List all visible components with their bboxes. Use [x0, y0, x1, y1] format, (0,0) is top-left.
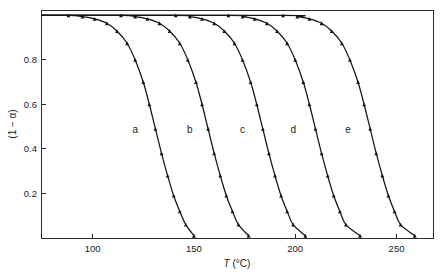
x-axis-ticks — [93, 234, 397, 238]
data-point-a-6 — [133, 58, 137, 62]
plot-area-border — [42, 11, 434, 239]
data-point-a-9 — [154, 127, 158, 131]
x-tick-label-200: 200 — [287, 243, 303, 254]
data-point-b-12 — [224, 194, 228, 198]
x-axis-title-text: T (°C) — [224, 258, 251, 269]
figure-container: 0.20.40.60.8 100150200250 abcde T (°C) (… — [0, 0, 445, 274]
data-point-b-9 — [206, 127, 210, 131]
x-axis-title: T (°C) — [224, 258, 251, 269]
data-point-b-13 — [231, 209, 235, 213]
curve-label-a: a — [132, 124, 138, 135]
data-point-b-6 — [186, 58, 190, 62]
data-point-c-11 — [273, 174, 277, 178]
data-point-d-13 — [338, 209, 342, 213]
data-point-a-8 — [147, 103, 151, 107]
data-point-a-7 — [141, 80, 145, 84]
data-point-e-13 — [393, 209, 397, 213]
data-point-d-8 — [308, 103, 312, 107]
data-point-c-9 — [261, 127, 265, 131]
y-tick-label-0.8: 0.8 — [24, 54, 37, 65]
curve-label-c: c — [240, 124, 245, 135]
data-point-d-12 — [332, 194, 336, 198]
data-point-e-12 — [387, 194, 391, 198]
curve-label-e: e — [345, 124, 351, 135]
data-point-b-7 — [194, 80, 198, 84]
y-axis-ticks — [42, 60, 46, 194]
data-point-e-11 — [380, 174, 384, 178]
y-tick-label-0.2: 0.2 — [24, 188, 37, 199]
y-axis-tick-labels: 0.20.40.60.8 — [24, 54, 37, 199]
data-point-c-10 — [267, 152, 271, 156]
data-point-c-13 — [285, 209, 289, 213]
data-point-b-11 — [218, 174, 222, 178]
data-point-a-12 — [172, 194, 176, 198]
data-curves-layer — [42, 15, 415, 235]
y-tick-label-0.6: 0.6 — [24, 99, 37, 110]
y-axis-title-text: (1 − α) — [7, 109, 18, 138]
data-point-c-12 — [279, 194, 283, 198]
x-tick-label-100: 100 — [85, 243, 101, 254]
y-axis-title: (1 − α) — [7, 109, 18, 138]
curve-c — [42, 15, 305, 235]
x-tick-label-150: 150 — [186, 243, 202, 254]
data-point-a-13 — [178, 209, 182, 213]
curve-label-d: d — [290, 124, 296, 135]
curve-d — [42, 15, 360, 235]
data-point-e-6 — [348, 58, 352, 62]
data-point-a-10 — [160, 152, 164, 156]
conversion-curve-chart: 0.20.40.60.8 100150200250 abcde T (°C) (… — [0, 0, 445, 274]
data-point-c-7 — [249, 80, 253, 84]
data-point-c-8 — [255, 103, 259, 107]
curve-a — [42, 15, 194, 235]
x-tick-label-250: 250 — [389, 243, 405, 254]
data-point-b-10 — [212, 152, 216, 156]
curve-label-b: b — [187, 124, 193, 135]
data-point-d-9 — [314, 127, 318, 131]
y-tick-label-0.4: 0.4 — [24, 143, 37, 154]
data-point-c-6 — [241, 58, 245, 62]
x-axis-tick-labels: 100150200250 — [85, 243, 405, 254]
data-point-e-10 — [374, 152, 378, 156]
curve-annotations-layer: abcde — [132, 124, 351, 135]
data-point-a-11 — [166, 174, 170, 178]
curve-b — [42, 15, 249, 235]
data-point-e-8 — [362, 103, 366, 107]
data-point-d-7 — [301, 80, 305, 84]
data-point-b-8 — [200, 103, 204, 107]
plot-frame — [42, 11, 434, 239]
data-point-d-10 — [320, 152, 324, 156]
x-axis-title-units: (°C) — [233, 258, 251, 269]
data-point-d-11 — [326, 174, 330, 178]
data-point-e-7 — [356, 80, 360, 84]
data-point-e-9 — [368, 127, 372, 131]
data-point-d-6 — [293, 58, 297, 62]
